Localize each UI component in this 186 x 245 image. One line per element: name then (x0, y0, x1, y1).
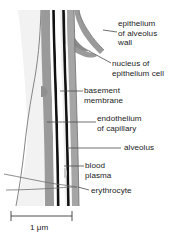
label-line: epithelium cell (112, 69, 164, 79)
alveolus-capillary-figure: epithelium of alveolus wall nucleus of e… (0, 0, 186, 245)
label-line: of alveolus (118, 29, 157, 39)
label-line: alveolus (124, 143, 154, 153)
scale-bar-label: 1 μm (30, 223, 48, 232)
label-line: erythrocyte (91, 186, 132, 196)
label-endothelium-of-capillary: endothelium of capillary (97, 114, 142, 133)
label-line: nucleus of (112, 59, 164, 69)
label-line: membrane (84, 96, 123, 106)
leader-erythrocyte (78, 187, 89, 190)
label-blood-plasma: blood plasma (85, 161, 111, 180)
label-line: epithelium (118, 19, 157, 29)
label-line: plasma (85, 171, 111, 181)
label-line: wall (118, 38, 157, 48)
label-line: basement (84, 86, 123, 96)
label-alveolus: alveolus (124, 143, 154, 153)
label-line: blood (85, 161, 111, 171)
diagram-illustration (0, 0, 186, 245)
label-basement-membrane: basement membrane (84, 86, 123, 105)
label-erythrocyte: erythrocyte (91, 186, 132, 196)
label-line: of capillary (97, 124, 142, 134)
label-line: endothelium (97, 114, 142, 124)
label-nucleus-of-epithelium-cell: nucleus of epithelium cell (112, 59, 164, 78)
label-epithelium-of-alveolus-wall: epithelium of alveolus wall (118, 19, 157, 48)
leader-epithelium-of-alveolus-wall (103, 30, 117, 32)
